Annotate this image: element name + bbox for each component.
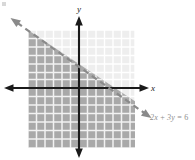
y-axis-label: y [77,5,81,14]
x-axis-right-arrowhead [140,84,150,92]
equation-term-x: 2x [150,113,158,122]
x-axis-left-arrowhead [4,84,14,92]
y-axis-top-arrowhead [75,16,83,26]
y-axis-bottom-arrowhead [75,149,83,159]
equation-equals: = [175,113,184,122]
boundary-line-equation-label: 2x + 3y = 6 [150,114,188,122]
x-axis-label: x [151,84,155,93]
equation-constant: 6 [184,113,188,122]
inequality-graph-figure: x y 2x + 3y = 6 [0,0,195,160]
equation-term-y: 3y [167,113,175,122]
equation-plus: + [158,113,167,122]
graph-canvas [0,0,195,160]
